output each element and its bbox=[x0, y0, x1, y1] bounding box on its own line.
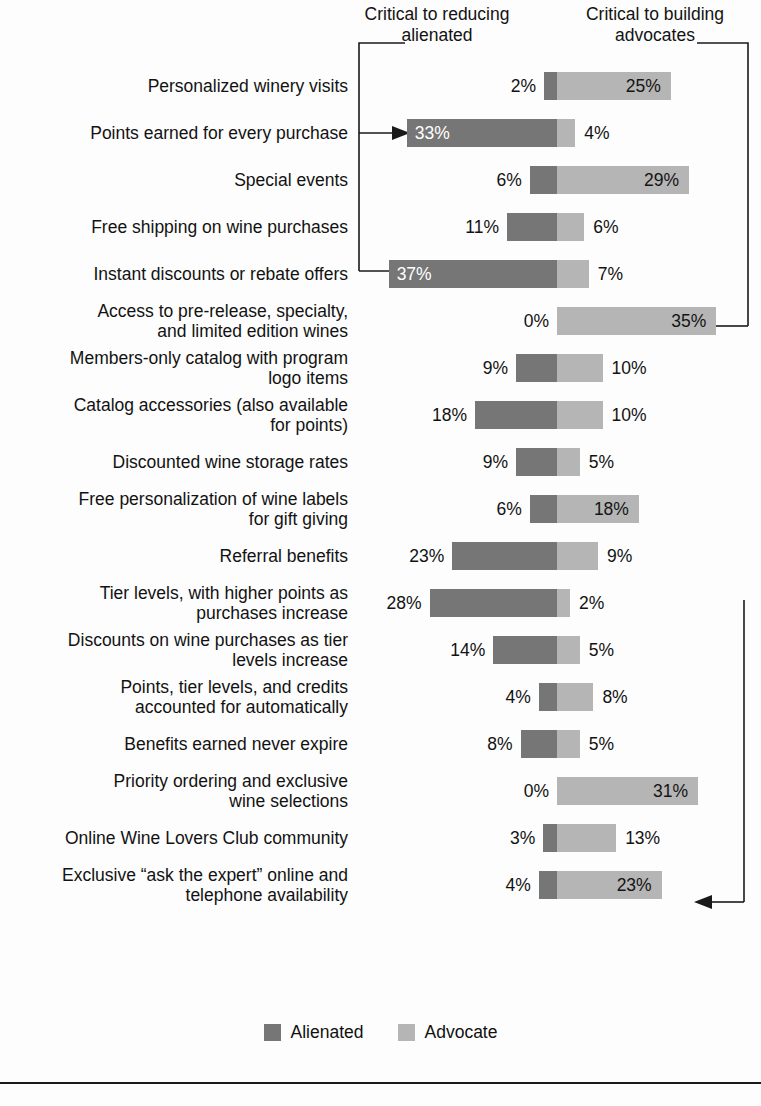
bar-advocate bbox=[557, 448, 580, 476]
value-advocate: 25% bbox=[626, 76, 661, 96]
chart-row: Discounts on wine purchases as tier leve… bbox=[0, 626, 761, 673]
legend-label-advocate: Advocate bbox=[425, 1022, 498, 1043]
legend-label-alienated: Alienated bbox=[291, 1022, 364, 1043]
chart-row: Special events6%29% bbox=[0, 156, 761, 203]
chart-row: Free personalization of wine labels for … bbox=[0, 485, 761, 532]
bar-advocate bbox=[557, 401, 603, 429]
chart-legend: Alienated Advocate bbox=[0, 1022, 761, 1043]
value-alienated: 18% bbox=[432, 405, 467, 425]
chart-row: Tier levels, with higher points as purch… bbox=[0, 579, 761, 626]
bar-alienated bbox=[493, 636, 557, 664]
bar-alienated bbox=[530, 166, 557, 194]
value-alienated: 8% bbox=[487, 734, 512, 754]
value-alienated: 28% bbox=[387, 593, 422, 613]
bar-alienated bbox=[507, 213, 557, 241]
chart-row: Benefits earned never expire8%5% bbox=[0, 720, 761, 767]
legend-swatch-advocate-icon bbox=[398, 1024, 415, 1041]
bar-alienated bbox=[521, 730, 557, 758]
bar-alienated bbox=[539, 871, 557, 899]
chart-row: Referral benefits23%9% bbox=[0, 532, 761, 579]
chart-row: Exclusive “ask the expert” online and te… bbox=[0, 861, 761, 908]
chart-row: Access to pre-release, specialty, and li… bbox=[0, 297, 761, 344]
bar-advocate bbox=[557, 824, 616, 852]
row-bar-area: 33%4% bbox=[0, 109, 761, 156]
value-alienated: 9% bbox=[483, 452, 508, 472]
chart-row: Online Wine Lovers Club community3%13% bbox=[0, 814, 761, 861]
bar-alienated bbox=[539, 683, 557, 711]
value-advocate: 5% bbox=[589, 452, 614, 472]
row-bar-area: 9%10% bbox=[0, 344, 761, 391]
bar-advocate bbox=[557, 260, 589, 288]
chart-row: Members-only catalog with program logo i… bbox=[0, 344, 761, 391]
value-alienated: 11% bbox=[465, 217, 499, 237]
bar-alienated bbox=[452, 542, 557, 570]
bar-alienated bbox=[475, 401, 557, 429]
value-advocate: 29% bbox=[644, 170, 679, 190]
row-bar-area: 28%2% bbox=[0, 579, 761, 626]
value-advocate: 35% bbox=[671, 311, 706, 331]
chart-row: Catalog accessories (also available for … bbox=[0, 391, 761, 438]
row-bar-area: 6%29% bbox=[0, 156, 761, 203]
row-bar-area: 0%31% bbox=[0, 767, 761, 814]
row-bar-area: 37%7% bbox=[0, 250, 761, 297]
right-bracket-caption: Critical to building advocates bbox=[560, 4, 750, 46]
row-bar-area: 9%5% bbox=[0, 438, 761, 485]
bar-alienated bbox=[544, 72, 557, 100]
legend-swatch-alienated-icon bbox=[264, 1024, 281, 1041]
value-advocate: 6% bbox=[593, 217, 618, 237]
row-bar-area: 2%25% bbox=[0, 62, 761, 109]
value-alienated: 23% bbox=[409, 546, 444, 566]
value-advocate: 7% bbox=[598, 264, 623, 284]
value-advocate: 10% bbox=[612, 358, 647, 378]
row-bar-area: 3%13% bbox=[0, 814, 761, 861]
value-alienated: 6% bbox=[496, 170, 521, 190]
diverging-bar-chart: Critical to reducing alienated Critical … bbox=[0, 0, 761, 1106]
row-bar-area: 14%5% bbox=[0, 626, 761, 673]
value-alienated: 3% bbox=[510, 828, 535, 848]
chart-rows: Personalized winery visits2%25%Points ea… bbox=[0, 62, 761, 908]
value-advocate: 2% bbox=[579, 593, 604, 613]
chart-row: Points earned for every purchase33%4% bbox=[0, 109, 761, 156]
bar-advocate bbox=[557, 589, 570, 617]
value-advocate: 5% bbox=[589, 640, 614, 660]
row-bar-area: 4%8% bbox=[0, 673, 761, 720]
value-alienated: 0% bbox=[524, 311, 549, 331]
row-bar-area: 0%35% bbox=[0, 297, 761, 344]
bottom-divider bbox=[0, 1082, 761, 1084]
bar-alienated bbox=[516, 448, 557, 476]
chart-row: Free shipping on wine purchases11%6% bbox=[0, 203, 761, 250]
bar-advocate bbox=[557, 119, 575, 147]
bar-alienated bbox=[530, 495, 557, 523]
chart-row: Personalized winery visits2%25% bbox=[0, 62, 761, 109]
value-alienated: 2% bbox=[511, 76, 536, 96]
bar-advocate bbox=[557, 213, 584, 241]
bar-advocate bbox=[557, 730, 580, 758]
value-advocate: 18% bbox=[594, 499, 629, 519]
chart-row: Instant discounts or rebate offers37%7% bbox=[0, 250, 761, 297]
row-bar-area: 4%23% bbox=[0, 861, 761, 908]
bar-alienated bbox=[516, 354, 557, 382]
bar-advocate bbox=[557, 683, 593, 711]
legend-item-alienated: Alienated bbox=[264, 1022, 364, 1043]
left-bracket-caption: Critical to reducing alienated bbox=[332, 4, 542, 46]
row-bar-area: 11%6% bbox=[0, 203, 761, 250]
value-advocate: 10% bbox=[612, 405, 647, 425]
value-advocate: 31% bbox=[653, 781, 688, 801]
row-bar-area: 23%9% bbox=[0, 532, 761, 579]
legend-item-advocate: Advocate bbox=[398, 1022, 498, 1043]
value-alienated: 0% bbox=[524, 781, 549, 801]
value-advocate: 23% bbox=[617, 875, 652, 895]
value-advocate: 5% bbox=[589, 734, 614, 754]
row-bar-area: 6%18% bbox=[0, 485, 761, 532]
value-advocate: 4% bbox=[584, 123, 609, 143]
chart-row: Discounted wine storage rates9%5% bbox=[0, 438, 761, 485]
value-alienated: 33% bbox=[415, 123, 450, 143]
chart-row: Points, tier levels, and credits account… bbox=[0, 673, 761, 720]
value-alienated: 14% bbox=[450, 640, 485, 660]
row-bar-area: 8%5% bbox=[0, 720, 761, 767]
value-alienated: 4% bbox=[506, 687, 531, 707]
bar-alienated bbox=[543, 824, 557, 852]
value-alienated: 37% bbox=[397, 264, 432, 284]
bar-advocate bbox=[557, 636, 580, 664]
row-bar-area: 18%10% bbox=[0, 391, 761, 438]
